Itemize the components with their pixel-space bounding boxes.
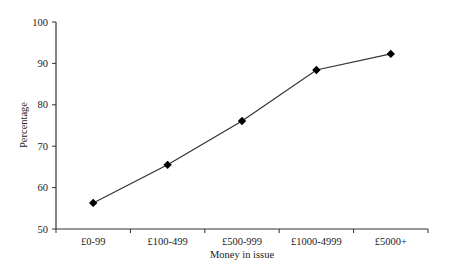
y-tick-label: 50 bbox=[38, 224, 49, 235]
x-tick-label: £0-99 bbox=[81, 236, 106, 247]
diamond-marker-icon bbox=[163, 161, 171, 169]
line-chart: 5060708090100 £0-99£100-499£500-999£1000… bbox=[0, 0, 450, 275]
y-axis-title: Percentage bbox=[18, 102, 29, 148]
x-tick-label: £500-999 bbox=[222, 236, 262, 247]
y-tick-label: 80 bbox=[38, 99, 49, 110]
x-tick-label: £1000-4999 bbox=[291, 236, 342, 247]
y-tick-label: 100 bbox=[32, 17, 48, 28]
series-line bbox=[93, 54, 391, 203]
x-axis-title: Money in issue bbox=[210, 249, 275, 260]
diamond-marker-icon bbox=[89, 199, 97, 207]
diamond-marker-icon bbox=[387, 50, 395, 58]
y-tick-label: 60 bbox=[38, 182, 49, 193]
x-tick-label: £5000+ bbox=[375, 236, 407, 247]
data-series bbox=[89, 50, 395, 207]
y-tick-label: 70 bbox=[38, 141, 49, 152]
x-axis: £0-99£100-499£500-999£1000-4999£5000+ bbox=[56, 229, 428, 247]
y-axis: 5060708090100 bbox=[32, 17, 56, 235]
diamond-marker-icon bbox=[312, 66, 320, 74]
x-tick-label: £100-499 bbox=[147, 236, 187, 247]
y-tick-label: 90 bbox=[38, 58, 49, 69]
diamond-marker-icon bbox=[238, 117, 246, 125]
